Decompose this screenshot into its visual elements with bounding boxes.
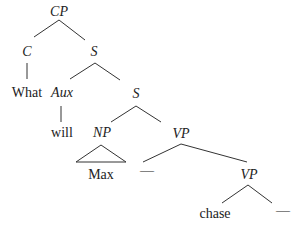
syntax-tree-diagram: CP C S What Aux S will NP VP Max — VP ch… (0, 0, 296, 231)
tree-branches (0, 0, 296, 231)
node-s: S (91, 44, 98, 60)
trace-gap-subject: — (140, 163, 154, 179)
node-vp: VP (172, 126, 189, 142)
word-what: What (12, 85, 42, 101)
node-aux: Aux (51, 85, 73, 101)
word-chase: chase (199, 206, 230, 222)
node-cp: CP (50, 4, 68, 20)
word-will: will (51, 125, 73, 141)
node-c: C (22, 44, 31, 60)
word-max: Max (88, 167, 114, 183)
node-vp-inner: VP (240, 167, 257, 183)
trace-gap-object: — (276, 203, 290, 219)
node-s-inner: S (133, 86, 140, 102)
node-np: NP (93, 125, 111, 141)
